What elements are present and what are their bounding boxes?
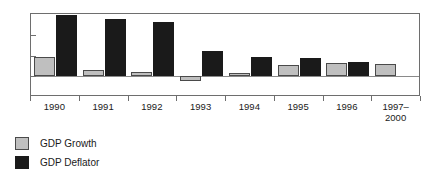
x-axis-label-1992: 1992 — [141, 101, 162, 112]
bar-gdp-growth-1993 — [180, 76, 201, 81]
bar-gdp-growth-1992 — [131, 72, 152, 77]
x-axis-tick-1995 — [323, 96, 324, 101]
x-axis-tick-1994 — [274, 96, 275, 101]
bar-gdp-growth-1996 — [326, 63, 347, 76]
legend-swatch-icon-gdp-deflator — [15, 156, 29, 169]
x-axis-label-1994: 1994 — [239, 101, 260, 112]
x-axis-tick-1993 — [225, 96, 226, 101]
y-axis-tick-0 — [31, 76, 36, 77]
x-axis-label-1993: 1993 — [190, 101, 211, 112]
x-axis-tick-1990 — [79, 96, 80, 101]
plot-area — [31, 14, 419, 95]
x-axis-label-1997–2000: 1997–2000 — [378, 101, 413, 123]
x-axis-label-1996: 1996 — [336, 101, 357, 112]
bar-gdp-deflator-1992 — [153, 22, 174, 76]
y-axis-tick-10 — [31, 35, 36, 36]
chart-legend: GDP Growth GDP Deflator — [15, 134, 99, 172]
x-axis-tick-1991 — [128, 96, 129, 101]
gdp-growth-deflator-bar-chart: −5051015 1990199119921993199419951996199… — [0, 0, 431, 189]
bar-gdp-deflator-1994 — [251, 57, 272, 77]
x-axis-label-1995: 1995 — [288, 101, 309, 112]
legend-swatch-icon-gdp-growth — [15, 137, 29, 150]
zero-baseline — [31, 76, 419, 77]
plot-frame — [30, 13, 420, 96]
legend-item-gdp-deflator: GDP Deflator — [15, 153, 99, 172]
bar-gdp-deflator-1991 — [105, 19, 126, 76]
x-axis-tick-origin — [30, 96, 31, 101]
bar-gdp-growth-1995 — [278, 65, 299, 76]
x-axis-tick-1992 — [176, 96, 177, 101]
legend-label-gdp-deflator: GDP Deflator — [40, 158, 99, 168]
x-axis-label-1990: 1990 — [44, 101, 65, 112]
bar-gdp-deflator-1996 — [348, 62, 369, 77]
x-axis-label-1991: 1991 — [93, 101, 114, 112]
bar-gdp-growth-1990 — [34, 57, 55, 76]
x-axis-tick-1996 — [371, 96, 372, 101]
x-axis-tick-1997–2000 — [420, 96, 421, 101]
bar-gdp-growth-1991 — [83, 70, 104, 77]
bar-gdp-growth-1997–2000 — [375, 64, 396, 76]
bar-gdp-deflator-1993 — [202, 51, 223, 76]
legend-item-gdp-growth: GDP Growth — [15, 134, 99, 153]
bar-gdp-deflator-1995 — [300, 58, 321, 76]
bar-gdp-deflator-1990 — [56, 15, 77, 76]
legend-label-gdp-growth: GDP Growth — [40, 139, 97, 149]
bar-gdp-growth-1994 — [229, 73, 250, 76]
